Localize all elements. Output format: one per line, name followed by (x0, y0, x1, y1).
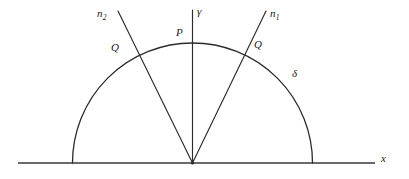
label-delta: δ (292, 68, 297, 79)
label-n1: n1 (270, 8, 279, 19)
figure-container: n2 γ n1 P Q Q δ x (0, 0, 409, 179)
label-n2-subscript: 2 (103, 13, 107, 22)
diagram-canvas (0, 0, 409, 179)
label-n2-base: n (97, 7, 103, 19)
ray-n1 (193, 11, 267, 163)
label-n1-base: n (270, 7, 276, 19)
vertex-point-marker (191, 161, 194, 164)
label-n2: n2 (97, 8, 106, 19)
label-n1-subscript: 1 (276, 13, 280, 22)
label-gamma: γ (197, 6, 201, 17)
label-q-left: Q (111, 42, 119, 53)
label-p: P (176, 27, 183, 38)
label-x-axis: x (381, 153, 386, 164)
label-q-right: Q (254, 39, 262, 50)
